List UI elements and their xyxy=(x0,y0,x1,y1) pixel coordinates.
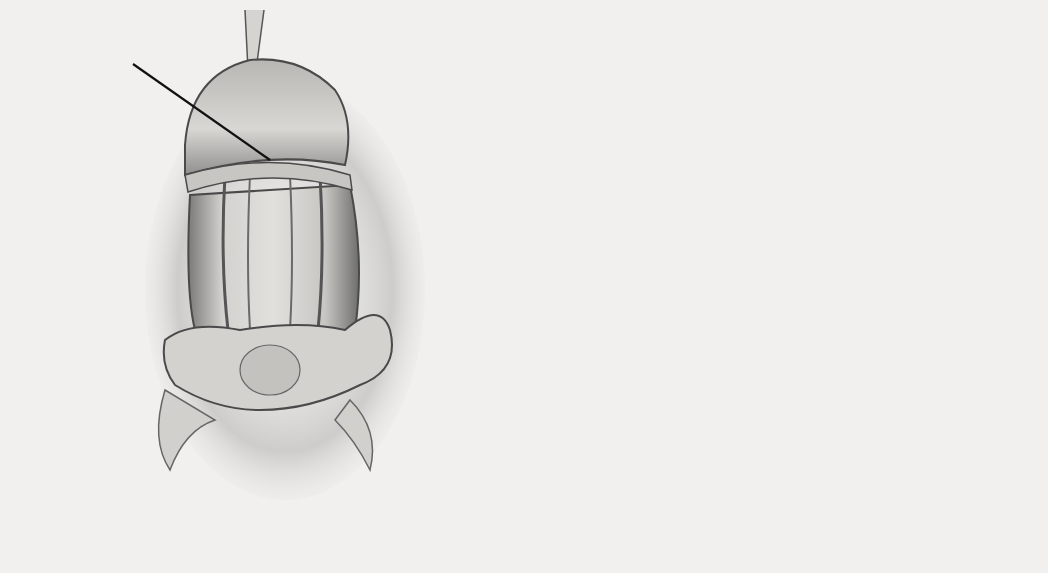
panel-j-drawing xyxy=(133,10,425,500)
illustration-canvas xyxy=(0,0,1048,573)
